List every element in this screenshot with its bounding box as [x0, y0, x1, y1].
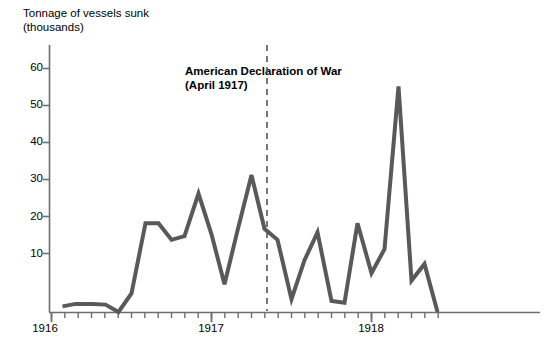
chart-svg: [0, 0, 554, 347]
chart-canvas: Tonnage of vessels sunk(thousands) Ameri…: [0, 0, 554, 347]
tonnage-data-line: [63, 86, 438, 312]
axis-lines: [49, 45, 540, 313]
x-axis-year-ticks: [52, 312, 372, 322]
